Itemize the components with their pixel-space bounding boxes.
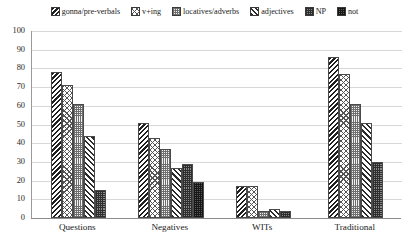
y-axis-tick-label: 30	[0, 158, 25, 166]
legend-swatch-icon	[337, 7, 346, 16]
y-axis-tick-label: 90	[0, 46, 25, 54]
x-axis-line	[31, 218, 401, 219]
bar[interactable]	[258, 211, 269, 218]
bar-group	[217, 31, 310, 218]
x-axis-tick-label: WITs	[216, 222, 309, 233]
bar[interactable]	[193, 182, 204, 218]
bar[interactable]	[328, 57, 339, 218]
bar[interactable]	[73, 104, 84, 218]
legend-item-locatives-adverbs[interactable]: locatives/adverbs	[172, 7, 239, 16]
bar[interactable]	[269, 209, 280, 218]
y-axis-tick-label: 100	[0, 27, 25, 35]
y-axis-tick-label: 70	[0, 83, 25, 91]
bar[interactable]	[51, 72, 62, 218]
bar-group	[310, 31, 403, 218]
legend-label: gonna/pre-verbals	[62, 7, 120, 16]
bar-chart: gonna/pre-verbals v+ing locatives/adverb…	[0, 0, 409, 248]
legend-item-gonna-pre-verbals[interactable]: gonna/pre-verbals	[51, 7, 120, 16]
y-axis-tick-label: 60	[0, 102, 25, 110]
y-axis-tick-label: 50	[0, 121, 25, 129]
legend-item-adjectives[interactable]: adjectives	[250, 7, 293, 16]
y-axis-tick-label: 80	[0, 64, 25, 72]
bar[interactable]	[138, 123, 149, 218]
x-axis-tick-label: Traditional	[309, 222, 402, 233]
legend-label: locatives/adverbs	[183, 7, 239, 16]
bar[interactable]	[350, 104, 361, 218]
bar-group	[32, 31, 125, 218]
bar[interactable]	[84, 136, 95, 218]
legend-item-not[interactable]: not	[337, 7, 358, 16]
bar[interactable]	[339, 74, 350, 218]
chart-legend: gonna/pre-verbals v+ing locatives/adverb…	[0, 3, 409, 19]
bar[interactable]	[171, 168, 182, 218]
bar[interactable]	[372, 162, 383, 218]
plot-area	[31, 31, 401, 218]
legend-label: not	[348, 7, 358, 16]
x-axis-tick-label: Questions	[31, 222, 124, 233]
bar[interactable]	[247, 186, 258, 218]
y-axis-tick-label: 40	[0, 139, 25, 147]
bar[interactable]	[95, 190, 106, 218]
bar[interactable]	[149, 138, 160, 218]
legend-label: NP	[316, 7, 326, 16]
legend-label: v+ing	[142, 7, 161, 16]
legend-swatch-icon	[131, 7, 140, 16]
y-axis-tick-label: 10	[0, 195, 25, 203]
legend-swatch-icon	[250, 7, 259, 16]
legend-label: adjectives	[261, 7, 293, 16]
bar[interactable]	[236, 186, 247, 218]
bar[interactable]	[62, 85, 73, 218]
y-axis-tick-label: 0	[0, 214, 25, 222]
legend-swatch-icon	[305, 7, 314, 16]
legend-item-np[interactable]: NP	[305, 7, 326, 16]
bar[interactable]	[280, 211, 291, 218]
legend-swatch-icon	[51, 7, 60, 16]
x-axis-tick-label: Negatives	[124, 222, 217, 233]
bar-group	[125, 31, 218, 218]
legend-swatch-icon	[172, 7, 181, 16]
legend-item-v-ing[interactable]: v+ing	[131, 7, 161, 16]
bar[interactable]	[361, 123, 372, 218]
y-axis-tick-label: 20	[0, 177, 25, 185]
bar[interactable]	[160, 149, 171, 218]
bar[interactable]	[182, 164, 193, 218]
